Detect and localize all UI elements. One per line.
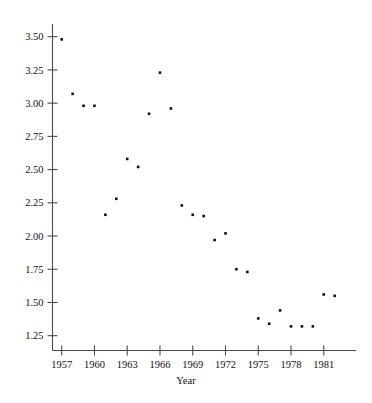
- x-tick-label: 1963: [117, 359, 138, 370]
- y-tick-label: 2.25: [25, 197, 43, 208]
- data-point-marker: [137, 166, 140, 169]
- data-point-marker: [148, 112, 151, 115]
- data-point-marker: [115, 198, 118, 201]
- x-axis-ticks: 195719601963196619691972197519781981: [51, 346, 334, 370]
- data-point-marker: [268, 322, 271, 325]
- x-tick-label: 1981: [313, 359, 334, 370]
- data-point-marker: [191, 213, 194, 216]
- x-tick-label: 1975: [248, 359, 269, 370]
- data-point-marker: [235, 268, 238, 271]
- x-tick-label: 1957: [51, 359, 72, 370]
- data-point-marker: [312, 325, 315, 328]
- data-point-marker: [181, 204, 184, 207]
- scatter-chart-figure: 1.251.501.752.002.252.502.753.003.253.50…: [0, 0, 372, 403]
- data-point-marker: [257, 317, 260, 320]
- y-tick-label: 2.00: [25, 231, 43, 242]
- y-tick-label: 3.50: [25, 31, 43, 42]
- data-point-marker: [224, 232, 227, 235]
- data-point-marker: [213, 239, 216, 242]
- axes: [53, 24, 357, 351]
- data-point-marker: [93, 105, 96, 108]
- data-point-marker: [333, 295, 336, 298]
- data-point-marker: [246, 271, 249, 274]
- data-point-marker: [60, 38, 63, 41]
- data-point-marker: [301, 325, 304, 328]
- data-point-marker: [71, 93, 74, 96]
- y-tick-label: 1.50: [25, 297, 43, 308]
- scatter-plot-canvas: 1.251.501.752.002.252.502.753.003.253.50…: [0, 0, 372, 403]
- data-point-marker: [290, 325, 293, 328]
- x-tick-label: 1969: [182, 359, 203, 370]
- data-point-marker: [322, 293, 325, 296]
- data-point-marker: [279, 309, 282, 312]
- y-tick-label: 3.00: [25, 98, 43, 109]
- y-tick-label: 3.25: [25, 65, 43, 76]
- data-point-marker: [82, 105, 85, 108]
- y-tick-label: 2.50: [25, 164, 43, 175]
- data-point-marker: [126, 158, 129, 161]
- x-tick-label: 1978: [281, 359, 302, 370]
- data-point-marker: [202, 215, 205, 218]
- x-tick-label: 1966: [149, 359, 170, 370]
- x-tick-label: 1972: [215, 359, 236, 370]
- y-tick-label: 1.75: [25, 264, 43, 275]
- x-axis-title: Year: [176, 375, 196, 386]
- data-point-marker: [104, 213, 107, 216]
- data-point-marker: [159, 71, 162, 74]
- data-points: [60, 38, 336, 328]
- data-point-marker: [170, 107, 173, 110]
- y-tick-label: 1.25: [25, 330, 43, 341]
- x-tick-label: 1960: [84, 359, 105, 370]
- y-tick-label: 2.75: [25, 131, 43, 142]
